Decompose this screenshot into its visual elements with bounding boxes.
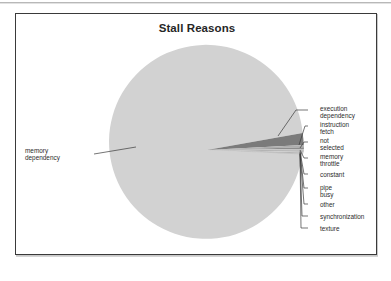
frame-drop-shadow xyxy=(16,256,378,257)
slice-label-constant-line1: constant xyxy=(320,171,344,178)
slice-label-texture-line1: texture xyxy=(320,225,340,232)
slice-label-texture: texture xyxy=(320,225,340,232)
slice-label-memory-dependency-line2: dependency xyxy=(25,154,60,161)
slice-label-not-selected: not selected xyxy=(320,137,344,152)
slice-label-not-selected-line2: selected xyxy=(320,144,344,151)
slice-label-execution-dependency-line2: dependency xyxy=(320,112,355,119)
slice-label-synchronization-line1: synchronization xyxy=(320,213,364,220)
slice-label-not-selected-line1: not xyxy=(320,137,344,144)
slice-label-other: other xyxy=(320,201,335,208)
slice-label-memory-throttle-line2: throttle xyxy=(320,160,343,167)
chart-frame: Stall Reasons xyxy=(15,13,377,255)
slice-label-execution-dependency: execution dependency xyxy=(320,105,355,120)
slice-label-execution-dependency-line1: execution xyxy=(320,105,355,112)
slice-label-instruction-fetch-line1: instruction xyxy=(320,121,349,128)
slice-label-other-line1: other xyxy=(320,201,335,208)
slice-label-instruction-fetch: instruction fetch xyxy=(320,121,349,136)
slice-label-pipe-busy-line1: pipe xyxy=(320,184,334,191)
slice-label-memory-dependency: memory dependency xyxy=(25,147,60,162)
slice-label-pipe-busy: pipe busy xyxy=(320,184,334,199)
slice-label-instruction-fetch-line2: fetch xyxy=(320,128,349,135)
slice-label-pipe-busy-line2: busy xyxy=(320,191,334,198)
slice-label-constant: constant xyxy=(320,171,344,178)
slice-label-memory-throttle: memory throttle xyxy=(320,153,343,168)
slice-label-memory-throttle-line1: memory xyxy=(320,153,343,160)
scanline-artifact-top-secondary xyxy=(0,3,391,4)
slice-label-synchronization: synchronization xyxy=(320,213,364,220)
slice-label-memory-dependency-line1: memory xyxy=(25,147,60,154)
